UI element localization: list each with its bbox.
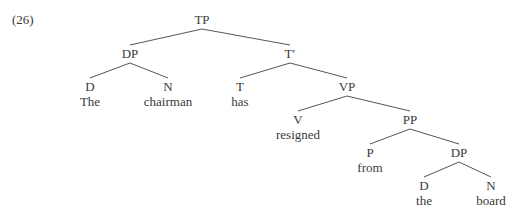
tree-edge [424,162,459,177]
tree-edge [290,63,347,78]
tree-edge [90,63,130,78]
tree-node-tp: TP [194,13,209,27]
tree-node-t: T [236,80,244,94]
tree-edge [370,129,410,144]
tree-edge [410,129,459,144]
tree-word: board [476,194,506,208]
tree-word: the [416,194,432,208]
tree-node-vp: VP [339,80,356,94]
tree-node-d: D [419,179,428,193]
tree-node-n: N [163,80,172,94]
tree-edge [130,63,168,78]
tree-word: chairman [144,95,192,109]
tree-edge [130,29,202,45]
tree-node-t-bar: T′ [285,47,296,61]
tree-node-p: P [366,146,373,160]
tree-node-n: N [486,179,495,193]
tree-node-pp: PP [403,113,417,127]
tree-node-d: D [85,80,94,94]
tree-edge [202,29,290,45]
example-number: (26) [12,13,34,27]
tree-node-dp: DP [122,47,139,61]
tree-node-v: V [293,113,302,127]
tree-edges [0,0,517,217]
tree-edge [347,96,410,111]
tree-node-dp: DP [451,146,468,160]
tree-edge [459,162,491,177]
tree-word: from [357,161,382,175]
tree-word: The [80,95,100,109]
tree-edge [298,96,347,111]
tree-word: has [231,95,248,109]
tree-edge [240,63,290,78]
tree-word: resigned [276,128,320,142]
